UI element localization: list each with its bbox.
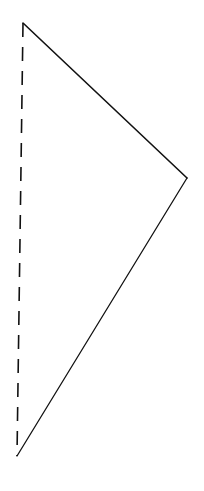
solid-edge-right-bottom	[17, 178, 187, 456]
diagram-canvas	[0, 0, 204, 491]
dashed-edge-bottom-top	[17, 23, 23, 456]
solid-edge-top-right	[23, 23, 187, 178]
triangle-diagram	[0, 0, 204, 491]
